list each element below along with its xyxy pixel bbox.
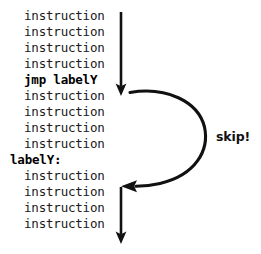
jump-flow-diagram: instruction instruction instruction inst… (0, 0, 261, 254)
downward-flow-arrow-top-icon (116, 12, 127, 96)
downward-flow-arrow-bottom-icon (116, 187, 127, 244)
skip-annotation-label: skip! (216, 129, 250, 144)
jump-skip-curve-arrow-icon (121, 91, 206, 192)
arrow-layer (0, 0, 261, 254)
